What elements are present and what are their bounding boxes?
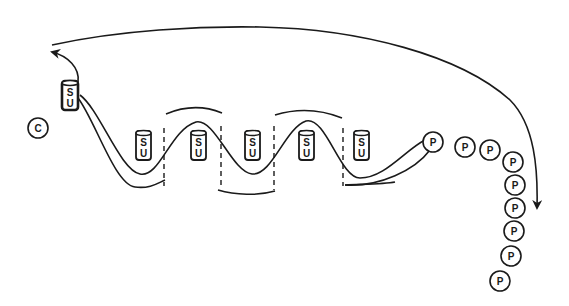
- player-4: P: [503, 152, 523, 172]
- cylinder-3: S U: [245, 131, 260, 161]
- player-2: P: [455, 137, 475, 157]
- coach-marker: C: [28, 118, 48, 138]
- cylinder-4: S U: [299, 131, 314, 161]
- svg-text:P: P: [462, 142, 469, 153]
- svg-text:U: U: [249, 148, 256, 159]
- player-1: P: [423, 132, 443, 152]
- svg-text:U: U: [358, 148, 365, 159]
- lower-arc-1: [218, 190, 275, 194]
- lead-exit-arrow: [52, 52, 78, 82]
- upper-arc-1: [166, 108, 222, 114]
- svg-text:P: P: [508, 251, 515, 262]
- svg-text:P: P: [487, 145, 494, 156]
- svg-text:P: P: [512, 180, 519, 191]
- svg-text:C: C: [34, 123, 41, 134]
- drill-diagram: S U S U S U S U S U S U C P P P P P: [0, 0, 569, 306]
- svg-text:U: U: [140, 148, 147, 159]
- svg-text:U: U: [303, 148, 310, 159]
- svg-text:P: P: [512, 203, 519, 214]
- player-9: P: [490, 271, 510, 291]
- svg-text:P: P: [510, 157, 517, 168]
- cylinder-5: S U: [354, 131, 369, 161]
- svg-text:U: U: [66, 98, 73, 109]
- svg-text:U: U: [195, 148, 202, 159]
- svg-text:S: S: [140, 137, 147, 148]
- cylinder-2: S U: [191, 131, 206, 161]
- svg-text:S: S: [249, 137, 256, 148]
- svg-text:S: S: [303, 137, 310, 148]
- svg-text:S: S: [358, 137, 365, 148]
- lead-cylinder: S U: [62, 81, 78, 111]
- svg-text:S: S: [195, 137, 202, 148]
- player-5: P: [505, 175, 525, 195]
- svg-text:S: S: [67, 87, 74, 98]
- svg-text:P: P: [511, 226, 518, 237]
- player-6: P: [505, 198, 525, 218]
- player-3: P: [480, 140, 500, 160]
- upper-arc-2: [275, 111, 342, 118]
- player-8: P: [501, 246, 521, 266]
- svg-text:P: P: [430, 137, 437, 148]
- svg-text:P: P: [497, 276, 504, 287]
- cylinder-1: S U: [136, 131, 151, 161]
- player-7: P: [504, 221, 524, 241]
- weave-path-outer: [78, 98, 165, 187]
